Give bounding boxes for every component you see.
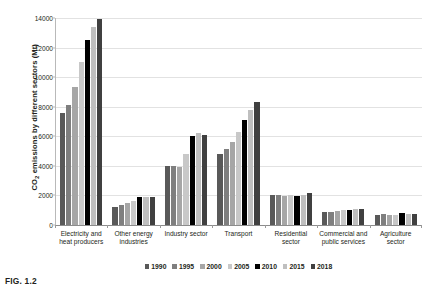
bar [406,214,411,225]
bar [224,149,229,225]
bar-group [265,18,317,225]
legend-swatch-icon [172,264,177,269]
y-axis-tick-mark [52,195,55,196]
bar [381,214,386,225]
legend-item[interactable]: 2005 [228,263,250,270]
bar [60,113,65,225]
bar [131,201,136,225]
x-axis-tick-mark [317,225,318,228]
bar [97,19,102,225]
x-axis-labels: Electricity and heat producersOther ener… [55,230,422,246]
legend-label: 1995 [179,263,194,270]
y-axis-tick-mark [52,136,55,137]
bar [353,209,358,225]
legend-label: 1990 [151,263,166,270]
bar [328,212,333,225]
bar-group [317,18,369,225]
bar [399,213,404,225]
y-axis-tick-label: 2000 [13,192,53,199]
legend-item[interactable]: 1995 [172,263,194,270]
x-axis-category-label: Commercial and public services [317,230,369,246]
x-axis-category-label: Other energy industries [107,230,159,246]
legend-item[interactable]: 2018 [311,263,333,270]
bar-groups [55,18,422,225]
bar [125,203,130,225]
bar [137,197,142,225]
x-axis-category-label: Residential sector [265,230,317,246]
x-axis-category-label: Industry sector [160,230,212,246]
bar-group [212,18,264,225]
y-axis-tick-label: 8000 [13,103,53,110]
bar [150,197,155,225]
bar [335,211,340,225]
y-axis-tick-label: 6000 [13,133,53,140]
y-axis-tick-mark [52,47,55,48]
x-axis-category-label: Electricity and heat producers [55,230,107,246]
y-axis-title-prefix: CO [30,179,39,191]
bar [282,196,287,225]
bar-group [107,18,159,225]
legend-swatch-icon [311,264,316,269]
legend-item[interactable]: 1990 [145,263,167,270]
figure-caption: FIG. 1.2 [5,276,37,286]
x-axis-tick-mark [265,225,266,228]
legend-swatch-icon [255,264,260,269]
legend-label: 2018 [317,263,332,270]
bar [288,195,293,225]
y-axis-tick-mark [52,225,55,226]
bar [242,120,247,225]
legend-swatch-icon [200,264,205,269]
legend-item[interactable]: 2015 [283,263,305,270]
bar [66,105,71,226]
bar-group [55,18,107,225]
bar-chart: CO2 emissions by different sectors (Mt) … [0,4,428,276]
bar [177,167,182,225]
x-axis-tick-mark [160,225,161,228]
x-axis-tick-mark [55,225,56,228]
y-axis-tick-label: 4000 [13,162,53,169]
bar [294,196,299,225]
bar [196,133,201,225]
chart-legend: 1990199520002005201020152018 [55,263,422,270]
bar [359,209,364,225]
y-axis-tick-mark [52,18,55,19]
legend-label: 2010 [262,263,277,270]
bar [112,207,117,225]
legend-item[interactable]: 2010 [255,263,277,270]
legend-swatch-icon [283,264,288,269]
bar [412,214,417,225]
bar [217,154,222,225]
y-axis-tick-label: 14000 [13,15,53,22]
bar [91,27,96,225]
x-axis-tick-mark [212,225,213,228]
legend-swatch-icon [228,264,233,269]
y-axis-tick-label: 12000 [13,44,53,51]
bar [202,135,207,225]
y-axis-tick-mark [52,165,55,166]
bar [143,197,148,225]
legend-label: 2000 [207,263,222,270]
y-axis-title-subscript: 2 [34,175,40,178]
bar [165,166,170,225]
bar-group [370,18,422,225]
bar [230,142,235,225]
bar [393,215,398,225]
legend-swatch-icon [145,264,150,269]
x-axis-tick-mark [370,225,371,228]
bar [236,132,241,225]
y-axis-tick-mark [52,77,55,78]
bar [347,210,352,225]
legend-item[interactable]: 2000 [200,263,222,270]
x-axis-category-label: Agriculture sector [370,230,422,246]
y-axis-tick-label: 0 [13,222,53,229]
figure-container: CO2 emissions by different sectors (Mt) … [0,0,428,293]
bar [72,87,77,225]
bar-group [160,18,212,225]
x-axis-category-label: Transport [212,230,264,246]
y-axis-tick-mark [52,106,55,107]
bar [341,210,346,225]
bar [190,136,195,225]
legend-label: 2005 [234,263,249,270]
x-axis-tick-mark [107,225,108,228]
bar [276,195,281,225]
